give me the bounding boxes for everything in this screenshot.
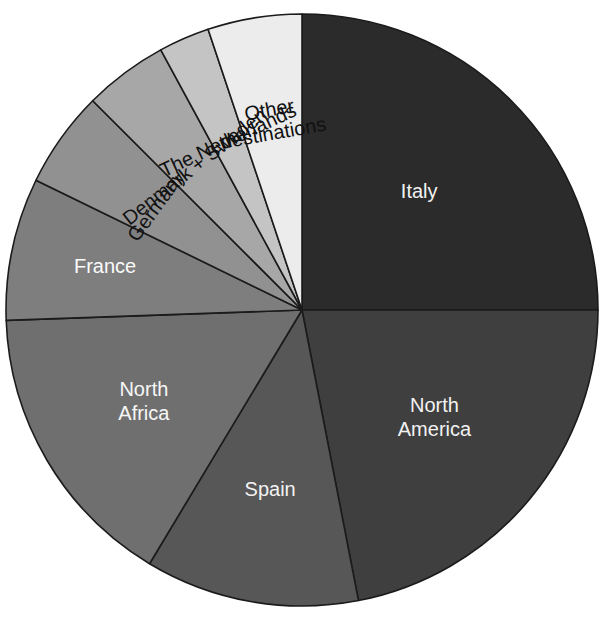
label-line: America	[398, 418, 472, 440]
pie-slice-label-france: France	[74, 255, 136, 277]
label-line: Italy	[401, 180, 438, 202]
pie-chart-svg: ItalyNorthAmericaSpainNorthAfricaFranceG…	[0, 0, 607, 635]
pie-slice-label-north-africa: NorthAfrica	[118, 379, 170, 425]
label-line: North	[119, 379, 168, 401]
label-line: Spain	[245, 478, 296, 500]
label-line: North	[410, 395, 459, 417]
pie-chart-figure: ItalyNorthAmericaSpainNorthAfricaFranceG…	[0, 0, 607, 635]
label-line: France	[74, 255, 136, 277]
pie-slice-italy[interactable]	[302, 14, 598, 310]
pie-slice-label-spain: Spain	[245, 478, 296, 500]
pie-slice-label-italy: Italy	[401, 180, 438, 202]
pie-slices-group	[6, 14, 598, 606]
label-line: Africa	[118, 402, 170, 424]
